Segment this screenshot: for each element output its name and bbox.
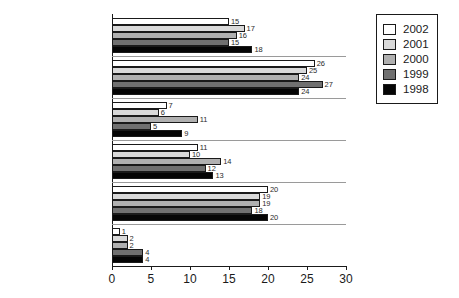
table-row: 13 <box>112 172 346 179</box>
bar-2000-4[interactable] <box>112 200 260 207</box>
legend-swatch-icon <box>383 39 396 50</box>
legend-label: 2001 <box>403 38 429 50</box>
table-row: 11 <box>112 144 346 151</box>
bar-group: 12244 <box>112 224 346 266</box>
bar-1998-3[interactable] <box>112 172 213 179</box>
legend-label: 1998 <box>403 83 429 95</box>
x-tick-mark <box>268 266 269 270</box>
legend-swatch-icon <box>383 84 396 95</box>
bar-1998-2[interactable] <box>112 130 182 137</box>
legend: 20022001200019991998 <box>376 14 438 104</box>
table-row: 19 <box>112 200 346 207</box>
legend-swatch-icon <box>383 54 396 65</box>
legend-item-2000[interactable]: 2000 <box>383 52 429 66</box>
table-row: 20 <box>112 186 346 193</box>
bar-group: 1110141213 <box>112 140 346 182</box>
bar-2002-1[interactable] <box>112 60 315 67</box>
bar-2002-3[interactable] <box>112 144 198 151</box>
bar-value-label: 4 <box>143 255 149 264</box>
x-tick-mark <box>112 266 113 270</box>
table-row: 12 <box>112 165 346 172</box>
bar-value-label: 18 <box>252 45 262 54</box>
bar-2001-3[interactable] <box>112 151 190 158</box>
bar-2002-4[interactable] <box>112 186 268 193</box>
x-tick-mark <box>346 266 347 270</box>
group-separator <box>112 182 346 183</box>
bar-value-label: 9 <box>182 129 188 138</box>
bar-group: 2625242724 <box>112 56 346 98</box>
bar-1999-3[interactable] <box>112 165 206 172</box>
bar-group: 1517161518 <box>112 14 346 56</box>
table-row: 27 <box>112 81 346 88</box>
table-row: 6 <box>112 109 346 116</box>
legend-swatch-icon <box>383 69 396 80</box>
group-separator <box>112 56 346 57</box>
x-tick-mark <box>151 266 152 270</box>
legend-item-2002[interactable]: 2002 <box>383 22 429 36</box>
bar-value-label: 20 <box>268 213 278 222</box>
bar-1998-4[interactable] <box>112 214 268 221</box>
bar-1999-0[interactable] <box>112 39 229 46</box>
table-row: 20 <box>112 214 346 221</box>
x-tick-label: 10 <box>183 272 197 286</box>
table-row: 25 <box>112 67 346 74</box>
table-row: 14 <box>112 158 346 165</box>
legend-swatch-icon <box>383 24 396 35</box>
table-row: 11 <box>112 116 346 123</box>
table-row: 19 <box>112 193 346 200</box>
plot-area: 051015202530 151716151826252427247611591… <box>112 14 346 266</box>
bar-1998-0[interactable] <box>112 46 252 53</box>
bar-2000-0[interactable] <box>112 32 237 39</box>
table-row: 18 <box>112 46 346 53</box>
legend-label: 2000 <box>403 53 429 65</box>
table-row: 5 <box>112 123 346 130</box>
x-tick-mark <box>229 266 230 270</box>
legend-label: 1999 <box>403 68 429 80</box>
table-row: 9 <box>112 130 346 137</box>
legend-item-2001[interactable]: 2001 <box>383 37 429 51</box>
group-separator <box>112 98 346 99</box>
bar-2001-2[interactable] <box>112 109 159 116</box>
bar-2002-0[interactable] <box>112 18 229 25</box>
table-row: 1 <box>112 228 346 235</box>
legend-label: 2002 <box>403 23 429 35</box>
bar-2002-5[interactable] <box>112 228 120 235</box>
table-row: 15 <box>112 39 346 46</box>
table-row: 2 <box>112 235 346 242</box>
x-tick-label: 30 <box>339 272 353 286</box>
group-separator <box>112 224 346 225</box>
legend-items: 20022001200019991998 <box>383 22 429 96</box>
legend-item-1998[interactable]: 1998 <box>383 82 429 96</box>
bar-2001-1[interactable] <box>112 67 307 74</box>
x-tick-mark <box>307 266 308 270</box>
bar-group: 2019191820 <box>112 182 346 224</box>
bar-1999-5[interactable] <box>112 249 143 256</box>
table-row: 15 <box>112 18 346 25</box>
group-separator <box>112 140 346 141</box>
table-row: 7 <box>112 102 346 109</box>
x-tick-label: 0 <box>109 272 116 286</box>
table-row: 17 <box>112 25 346 32</box>
legend-item-1999[interactable]: 1999 <box>383 67 429 81</box>
x-tick-label: 5 <box>148 272 155 286</box>
bar-1998-1[interactable] <box>112 88 299 95</box>
bar-2000-5[interactable] <box>112 242 128 249</box>
x-tick-label: 15 <box>222 272 236 286</box>
bar-2001-5[interactable] <box>112 235 128 242</box>
table-row: 24 <box>112 74 346 81</box>
bar-chart: 051015202530 151716151826252427247611591… <box>0 0 459 298</box>
bar-2001-0[interactable] <box>112 25 245 32</box>
bar-2001-4[interactable] <box>112 193 260 200</box>
bar-1999-4[interactable] <box>112 207 252 214</box>
bar-2000-1[interactable] <box>112 74 299 81</box>
bar-1999-2[interactable] <box>112 123 151 130</box>
table-row: 24 <box>112 88 346 95</box>
bar-1999-1[interactable] <box>112 81 323 88</box>
bar-value-label: 13 <box>213 171 223 180</box>
x-tick-label: 20 <box>261 272 275 286</box>
bar-value-label: 24 <box>299 87 309 96</box>
bar-group: 761159 <box>112 98 346 140</box>
x-tick-label: 25 <box>300 272 314 286</box>
x-tick-mark <box>190 266 191 270</box>
bar-1998-5[interactable] <box>112 256 143 263</box>
